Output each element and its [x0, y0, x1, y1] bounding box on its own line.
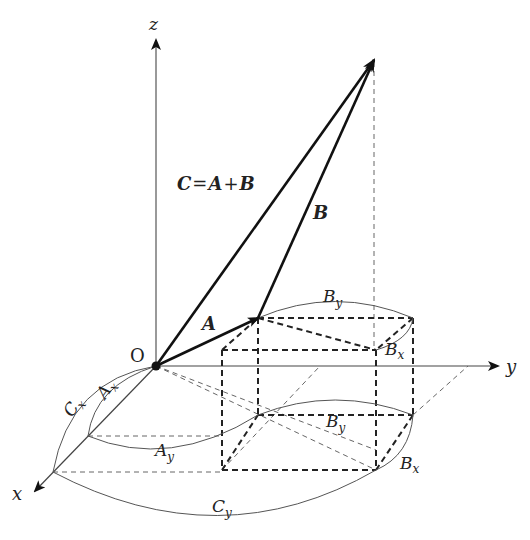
projection-lines [53, 62, 468, 472]
component-arcs [53, 302, 413, 516]
By-upper-label: By [322, 286, 343, 310]
origin-point [152, 362, 161, 371]
origin-label: O [130, 345, 145, 366]
Bx-lower-label: Bx [399, 453, 420, 476]
lower-component-box [222, 415, 413, 470]
diagram-svg: z y x O A B C=A+B Cx Ax Ay Cy By Bx By B… [0, 0, 530, 540]
Cx-label: Cx [59, 392, 89, 422]
z-axis-label: z [148, 14, 159, 34]
vectors [156, 60, 374, 366]
Cy-label: Cy [212, 496, 232, 520]
Bx-upper-label: Bx [384, 339, 405, 362]
y-axis-label: y [505, 356, 517, 377]
Ay-label: Ay [153, 440, 174, 464]
vector-B-label: B [312, 202, 328, 223]
vector-B [258, 60, 374, 318]
Ax-label: Ax [91, 375, 122, 406]
x-axis-label: x [12, 483, 22, 504]
C-equation-label: C=A+B [177, 173, 255, 194]
vector-A-label: A [200, 313, 216, 334]
vector-addition-diagram: z y x O A B C=A+B Cx Ax Ay Cy By Bx By B… [0, 0, 530, 540]
arc-Ay [88, 415, 258, 449]
vector-C [156, 60, 374, 366]
